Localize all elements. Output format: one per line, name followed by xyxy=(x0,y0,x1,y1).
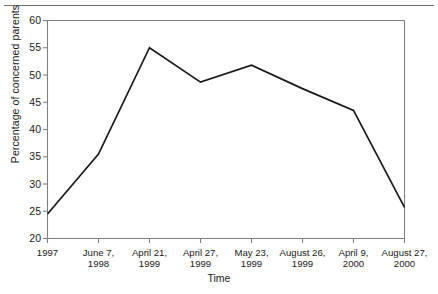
data-series-line xyxy=(48,48,405,214)
x-tick-label-line: 2000 xyxy=(370,258,438,269)
y-axis-title-wrap: Percentage of concerned parents xyxy=(5,0,19,194)
y-axis-title: Percentage of concerned parents xyxy=(9,5,21,163)
tick-marks xyxy=(43,21,405,244)
chart-axes xyxy=(48,21,405,239)
x-axis-title: Time xyxy=(0,272,438,284)
y-tick-label: 20 xyxy=(15,233,41,243)
x-tick-label: August 27,2000 xyxy=(370,247,438,269)
chart-figure: 202530354045505560 1997June 7,1998April … xyxy=(0,0,438,294)
y-tick-label: 25 xyxy=(15,206,41,216)
x-tick-label-line: August 27, xyxy=(370,247,438,258)
